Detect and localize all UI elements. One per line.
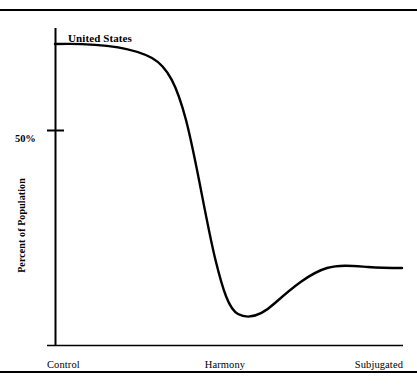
- y-axis-title: Percent of Population: [16, 166, 27, 286]
- figure-page: United States 50% Percent of Population …: [0, 0, 417, 385]
- page-header-fragment: [0, 0, 417, 9]
- x-axis-tick-label-harmony: Harmony: [47, 359, 403, 370]
- x-axis-tick-label-subjugated: Subjugated: [355, 359, 403, 370]
- chart-svg: [0, 10, 417, 371]
- series-annotation-united-states: United States: [68, 32, 132, 44]
- series-line-united-states: [55, 44, 402, 317]
- y-axis-tick-label-50: 50%: [15, 133, 36, 144]
- bottom-rule: [0, 371, 417, 373]
- chart-plot-area: United States 50% Percent of Population …: [0, 10, 417, 371]
